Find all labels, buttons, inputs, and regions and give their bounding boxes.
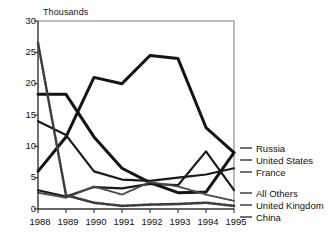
- series-layer: [38, 43, 234, 206]
- plot-area: [0, 0, 329, 240]
- series-line-france: [38, 121, 234, 181]
- series-line-united-states: [38, 94, 234, 192]
- legend-leader-lines: [240, 148, 252, 217]
- line-chart: Thousands 30 25 20 15 10 5 0 1988 1989 1…: [0, 0, 329, 240]
